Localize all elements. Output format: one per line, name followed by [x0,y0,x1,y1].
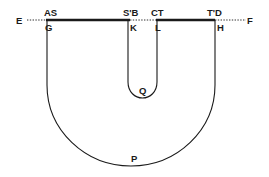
label-as: AS [44,7,57,18]
label-q: Q [139,85,146,96]
label-p: P [131,153,138,164]
label-f: F [247,15,253,26]
label-g: G [45,22,52,33]
label-td: T'D [207,7,222,18]
label-sb: S'B [123,7,139,18]
label-ct: CT [151,7,164,18]
label-e: E [16,15,22,26]
outer-u-curve-gph [47,20,215,166]
label-l: L [155,22,161,33]
label-k: K [130,22,137,33]
label-h: H [217,22,224,33]
geometry-diagram: E AS G S'B K CT L T'D H F Q P [0,0,269,177]
